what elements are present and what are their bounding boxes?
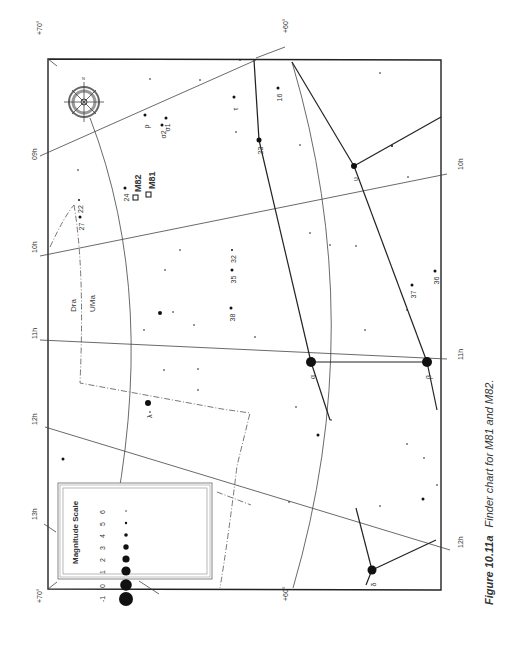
constellation-dra: Dra <box>69 299 78 312</box>
magnitude-dot <box>125 510 126 511</box>
star-label: σ1 <box>164 123 171 131</box>
star <box>239 59 241 61</box>
grid-label: 10h <box>457 158 464 170</box>
grid-label: +70° <box>36 20 43 35</box>
star <box>158 311 162 315</box>
star <box>391 145 393 147</box>
star <box>149 78 151 80</box>
star <box>306 357 316 367</box>
star <box>329 244 331 246</box>
star <box>351 163 357 169</box>
star-label: 36 <box>433 277 440 285</box>
m82-label: M82 <box>133 174 143 192</box>
star <box>230 307 233 310</box>
figure-caption-text: Finder chart for M81 and M82. <box>483 380 495 528</box>
star <box>299 144 301 146</box>
star <box>330 419 332 421</box>
figure-caption: Figure 10.11aFinder chart for M81 and M8… <box>483 380 495 605</box>
star <box>434 270 437 273</box>
m81-label: M81 <box>147 171 157 189</box>
star <box>277 87 280 90</box>
dec-circle-60 <box>292 62 331 588</box>
star <box>423 457 425 459</box>
asterism-lines <box>254 60 441 585</box>
star <box>199 79 201 81</box>
star <box>407 176 409 178</box>
grid-label: +60° <box>282 18 289 33</box>
star-label: 27 <box>78 223 85 231</box>
magnitude-dot <box>124 533 128 537</box>
magnitude-scale-legend: Magnitude Scale 6543210-1 <box>58 483 212 606</box>
finder-chart: αβδυλ23ρσ2σ1τ16242227323538373609h10h11h… <box>0 0 512 647</box>
star <box>422 498 425 501</box>
grid-label: 09h <box>31 148 38 160</box>
magnitude-scale-title: Magnitude Scale <box>71 500 80 564</box>
star <box>144 114 147 117</box>
star-label: ρ <box>143 125 151 129</box>
star <box>179 249 181 251</box>
ra-line-10h <box>40 174 447 256</box>
star <box>309 232 311 234</box>
constellation-uma: UMa <box>88 295 97 312</box>
ra-tick-13h <box>44 524 56 532</box>
star <box>436 484 438 486</box>
grid-label: 12h <box>31 413 38 425</box>
magnitude-label: 4 <box>99 534 106 538</box>
star <box>317 434 320 437</box>
magnitude-label: 6 <box>99 510 106 514</box>
star <box>62 458 65 461</box>
magnitude-label: 0 <box>99 584 106 588</box>
star-label: 16 <box>276 94 283 102</box>
star <box>193 324 195 326</box>
ra-line-09h <box>40 60 256 156</box>
figure-number: Figure 10.11a <box>483 536 495 606</box>
compass-n: N <box>82 76 85 81</box>
magnitude-dot <box>125 522 127 524</box>
magnitude-dot <box>119 592 133 606</box>
star-label: 23 <box>257 147 264 155</box>
ra-line-11h <box>40 340 447 359</box>
m82-marker <box>133 195 138 200</box>
star-label: 37 <box>410 291 417 299</box>
star-label: 32 <box>230 255 237 263</box>
star <box>124 187 127 190</box>
star <box>163 369 165 371</box>
star <box>406 309 408 311</box>
star <box>78 199 80 201</box>
star-label: 24 <box>123 194 130 202</box>
star <box>254 336 256 338</box>
magnitude-label: 2 <box>99 558 106 562</box>
grid-label: 12h <box>457 536 464 548</box>
star <box>364 329 366 331</box>
ra-tick-12h-bottom <box>139 581 159 594</box>
star <box>79 216 82 219</box>
star-label: λ <box>146 414 153 418</box>
star <box>143 329 145 331</box>
star <box>379 72 381 74</box>
star-label: β <box>425 375 433 379</box>
star <box>149 411 151 413</box>
star <box>235 131 237 133</box>
star <box>295 406 297 408</box>
compass-rose-icon: N <box>64 76 104 122</box>
star <box>257 138 262 143</box>
magnitude-label: 3 <box>99 546 106 550</box>
dec-circle-70 <box>90 118 131 534</box>
star <box>368 566 377 575</box>
star <box>411 284 414 287</box>
star <box>379 505 381 507</box>
star <box>164 269 166 271</box>
star <box>231 269 234 272</box>
star-label: 35 <box>230 276 237 284</box>
grid-label: +70° <box>36 588 43 603</box>
grid-label: +60° <box>282 586 289 601</box>
star <box>233 96 236 99</box>
magnitude-dot <box>123 544 128 549</box>
star <box>355 245 357 247</box>
star-label: α <box>309 375 316 379</box>
magnitude-label: 5 <box>99 522 106 526</box>
star-label: υ <box>352 177 359 181</box>
grid-label: 11h <box>457 349 464 360</box>
star <box>231 249 233 251</box>
star-label: δ <box>370 583 377 587</box>
